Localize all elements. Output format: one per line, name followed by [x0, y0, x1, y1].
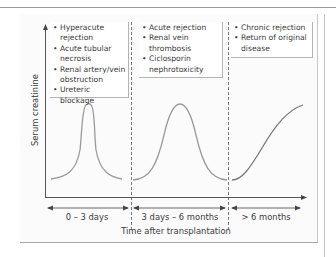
curve-broad-peak: [133, 104, 227, 180]
causes-list-intermediate: •Acute rejection •Renal vein thrombosis …: [141, 23, 220, 75]
bullet-icon: •: [234, 33, 238, 43]
y-axis-label: Serum creatinine: [30, 74, 40, 146]
bullet-icon: •: [53, 85, 57, 95]
curve-gradual-rise: [232, 105, 303, 180]
bullet-icon: •: [53, 23, 57, 33]
bullet-icon: •: [142, 23, 146, 33]
period-label-intermediate: 3 days – 6 months: [142, 212, 219, 222]
bullet-icon: •: [142, 54, 146, 64]
cause-item: •Chronic rejection: [233, 23, 310, 33]
x-axis-label: Time after transplantation: [121, 226, 231, 236]
causes-box-late: •Chronic rejection •Return of original d…: [231, 22, 313, 58]
cause-item: •Renal vein thrombosis: [141, 33, 220, 54]
cause-item: •Renal artery/vein obstruction: [52, 65, 126, 86]
bullet-icon: •: [234, 23, 238, 33]
bullet-icon: •: [53, 65, 57, 75]
cause-item: •Acute rejection: [141, 23, 220, 33]
causes-box-early: •Hyperacute rejection •Acute tubular nec…: [50, 22, 129, 98]
bullet-icon: •: [142, 33, 146, 43]
cause-item: •Hyperacute rejection: [52, 23, 126, 44]
period-label-late: > 6 months: [241, 212, 290, 222]
cause-item: •Ureteric blockage: [52, 85, 126, 106]
causes-list-early: •Hyperacute rejection •Acute tubular nec…: [52, 23, 126, 106]
curve-sharp-peak: [51, 104, 122, 180]
causes-box-intermediate: •Acute rejection •Renal vein thrombosis …: [139, 22, 223, 78]
cause-item: •Acute tubular necrosis: [52, 44, 126, 65]
period-label-early: 0 – 3 days: [66, 212, 109, 222]
cause-item: •Return of original disease: [233, 33, 310, 54]
cause-item: •Ciclosporin nephrotoxicity: [141, 54, 220, 75]
causes-list-late: •Chronic rejection •Return of original d…: [233, 23, 310, 54]
bullet-icon: •: [53, 44, 57, 54]
